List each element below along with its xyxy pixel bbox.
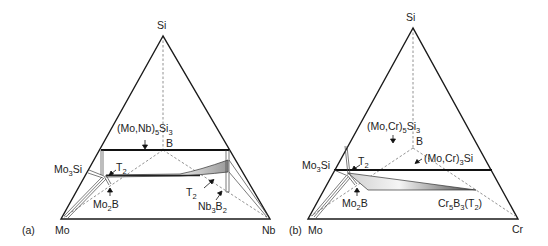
corner-label-left: Mo	[308, 224, 323, 236]
corner-label-left: Mo	[55, 224, 70, 236]
panel-b: Si Mo Cr (b) B (Mo,Cr)5Si3 (Mo,Cr)3Si Mo…	[289, 11, 524, 236]
cr5b3-solid-solution-region	[348, 173, 476, 190]
phase-label-mo3si: Mo3Si	[302, 159, 330, 174]
phase-label-cr5b3-t2: Cr5B3(T2)	[438, 197, 482, 212]
phase-label-mo2b: Mo2B	[342, 197, 368, 212]
ternary-diagrams: Si Mo Nb (a) B (Mo,Nb)5Si3 Mo3Si T2 Mo2B…	[0, 0, 548, 246]
phase-label-m3si: (Mo,Cr)3Si	[424, 152, 473, 167]
corner-label-top: Si	[157, 19, 166, 31]
phase-label-t2-right: T2	[186, 186, 197, 201]
panel-label: (a)	[22, 224, 35, 236]
phase-label-t2-left: T2	[116, 161, 127, 176]
panel-a: Si Mo Nb (a) B (Mo,Nb)5Si3 Mo3Si T2 Mo2B…	[22, 19, 276, 236]
corner-label-top: Si	[406, 11, 415, 23]
phase-label-m5si3: (Mo,Nb)5Si3	[117, 122, 173, 137]
boron-point-label: B	[416, 135, 423, 147]
phase-label-mo3si: Mo3Si	[54, 163, 82, 178]
phase-label-nb3b2: Nb3B2	[198, 200, 227, 215]
right-phase-boundaries	[226, 150, 268, 217]
phase-label-mo2b: Mo2B	[93, 198, 119, 213]
boron-point-label: B	[166, 137, 173, 149]
phase-label-m5si3: (Mo,Cr)5Si3	[367, 120, 420, 135]
phase-label-t2: T2	[358, 155, 369, 170]
corner-label-right: Nb	[262, 224, 276, 236]
panel-label: (b)	[289, 224, 302, 236]
corner-label-right: Cr	[512, 223, 524, 235]
